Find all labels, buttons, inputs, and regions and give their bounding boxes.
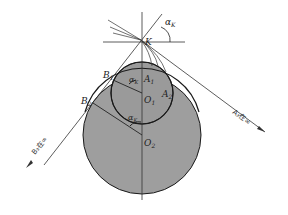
geometry-diagram: K αK B1 B2 A1 A2 O1 O2 αK αK A₃在∞ B₃在∞ [0, 0, 288, 215]
label-b2: B2 [80, 96, 92, 107]
label-k: K [144, 37, 153, 47]
label-b3-infinity: B₃在∞ [29, 134, 49, 156]
angle-arc-k [161, 27, 170, 42]
label-b1: B1 [102, 70, 113, 81]
label-alpha-k-top: αK [165, 17, 176, 28]
diagram-canvas: K αK B1 B2 A1 A2 O1 O2 αK αK A₃在∞ B₃在∞ [0, 0, 288, 215]
label-a3-infinity: A₃在∞ [231, 107, 253, 126]
arrow-b3-icon [26, 160, 33, 168]
ray-1 [108, 20, 141, 40]
